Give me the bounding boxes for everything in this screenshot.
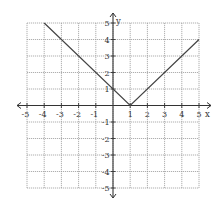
x-tick-label: -1 xyxy=(90,110,98,119)
x-tick-label: -5 xyxy=(22,110,30,119)
tick-labels: -5-4-3-2-112345-5-4-3-2-112345xy xyxy=(22,16,210,193)
y-tick-label: -1 xyxy=(102,118,110,127)
y-tick-label: -5 xyxy=(102,184,110,193)
coordinate-plane: -5-4-3-2-112345-5-4-3-2-112345xy xyxy=(0,0,223,203)
x-tick-label: -4 xyxy=(39,110,47,119)
x-tick-label: 4 xyxy=(179,110,184,119)
y-tick-label: 5 xyxy=(104,19,109,28)
x-tick-label: -2 xyxy=(73,110,81,119)
x-tick-label: 3 xyxy=(162,110,167,119)
y-tick-label: 3 xyxy=(104,52,109,61)
x-axis-label: x xyxy=(205,109,210,119)
y-tick-label: 1 xyxy=(104,85,109,94)
graph-line xyxy=(44,23,199,106)
x-tick-label: 2 xyxy=(145,110,150,119)
data-series xyxy=(44,23,199,106)
y-tick-label: -3 xyxy=(102,151,110,160)
y-tick-label: 2 xyxy=(104,69,109,78)
y-axis-label: y xyxy=(115,16,121,26)
x-tick-label: -3 xyxy=(56,110,64,119)
y-tick-label: -4 xyxy=(102,168,110,177)
y-tick-label: 4 xyxy=(104,36,109,45)
x-tick-label: 1 xyxy=(128,110,133,119)
y-tick-label: -2 xyxy=(102,135,110,144)
x-tick-label: 5 xyxy=(196,110,201,119)
